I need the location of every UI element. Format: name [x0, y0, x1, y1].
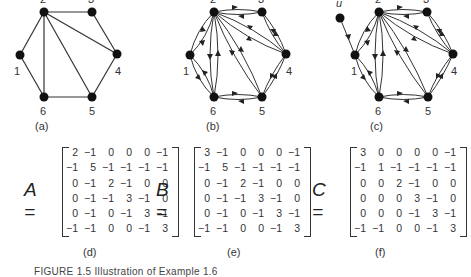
- svg-text:4: 4: [286, 65, 292, 77]
- cell: 0: [230, 221, 248, 236]
- cell: −1: [134, 221, 152, 236]
- cell: 0: [62, 176, 80, 191]
- svg-text:5: 5: [89, 105, 95, 117]
- cell: 0: [368, 176, 386, 191]
- cell: 5: [80, 160, 98, 175]
- svg-text:3: 3: [423, 0, 429, 5]
- cell: −1: [230, 160, 248, 175]
- cell: −1: [80, 176, 98, 191]
- cell: −1: [80, 191, 98, 206]
- cell: −1: [266, 160, 284, 175]
- cell: −1: [212, 206, 230, 221]
- svg-text:6: 6: [210, 105, 216, 117]
- cell: 2: [62, 145, 80, 160]
- cell: 3: [152, 221, 170, 236]
- cell: −1: [440, 145, 458, 160]
- cell: 3: [194, 145, 212, 160]
- cell: −1: [116, 176, 134, 191]
- cell: 0: [284, 176, 302, 191]
- cell: 3: [248, 191, 266, 206]
- cell: −1: [62, 221, 80, 236]
- cell: −1: [422, 160, 440, 175]
- cell: −1: [134, 160, 152, 175]
- cell: −1: [248, 206, 266, 221]
- panel-label-a: (a): [35, 120, 48, 132]
- cell: 0: [284, 191, 302, 206]
- matrix-a-grid: 2−1000−1 −15−1−1−1−1 0−12−100 0−1−13−10 …: [62, 145, 170, 237]
- svg-text:2: 2: [40, 0, 46, 5]
- cell: 3: [116, 191, 134, 206]
- panel-label-f: (f): [375, 246, 385, 258]
- cell: 3: [404, 191, 422, 206]
- cell: 0: [98, 221, 116, 236]
- cell: −1: [368, 221, 386, 236]
- cell: 0: [368, 206, 386, 221]
- cell: 0: [386, 221, 404, 236]
- cell: −1: [152, 145, 170, 160]
- cell: 0: [266, 145, 284, 160]
- cell: 3: [422, 206, 440, 221]
- cell: 0: [386, 206, 404, 221]
- cell: −1: [248, 160, 266, 175]
- cell: 2: [230, 176, 248, 191]
- cell: −1: [98, 160, 116, 175]
- matrix-b-label: B =: [156, 179, 169, 223]
- cell: −1: [284, 160, 302, 175]
- cell: −1: [194, 221, 212, 236]
- cell: −1: [116, 206, 134, 221]
- cell: −1: [440, 160, 458, 175]
- cell: 0: [350, 176, 368, 191]
- cell: 3: [134, 206, 152, 221]
- cell: −1: [230, 191, 248, 206]
- cell: 0: [62, 191, 80, 206]
- cell: 0: [368, 145, 386, 160]
- cell: −1: [350, 221, 368, 236]
- cell: 0: [134, 176, 152, 191]
- cell: 0: [98, 145, 116, 160]
- svg-text:4: 4: [451, 65, 457, 77]
- bracket-right: [460, 147, 467, 237]
- cell: 0: [230, 145, 248, 160]
- cell: −1: [134, 191, 152, 206]
- cell: −1: [248, 176, 266, 191]
- cell: −1: [404, 206, 422, 221]
- svg-text:3: 3: [88, 0, 94, 5]
- svg-text:1: 1: [14, 65, 20, 77]
- panel-label-b: (b): [206, 120, 219, 132]
- cell: −1: [266, 191, 284, 206]
- cell: 0: [440, 191, 458, 206]
- svg-text:u: u: [336, 0, 342, 9]
- svg-text:2: 2: [210, 0, 216, 5]
- cell: −1: [440, 206, 458, 221]
- cell: 0: [422, 145, 440, 160]
- panel-label-e: (e): [227, 246, 240, 258]
- cell: −1: [212, 176, 230, 191]
- cell: 0: [404, 221, 422, 236]
- cell: −1: [404, 176, 422, 191]
- cell: −1: [404, 160, 422, 175]
- cell: 0: [440, 176, 458, 191]
- cell: 3: [440, 221, 458, 236]
- cell: 5: [212, 160, 230, 175]
- cell: 0: [404, 145, 422, 160]
- cell: −1: [422, 221, 440, 236]
- svg-text:5: 5: [425, 105, 431, 117]
- cell: 0: [134, 145, 152, 160]
- cell: 2: [386, 176, 404, 191]
- cell: 0: [116, 221, 134, 236]
- cell: −1: [422, 191, 440, 206]
- cell: −1: [80, 221, 98, 236]
- cell: −1: [194, 160, 212, 175]
- cell: 1: [368, 160, 386, 175]
- matrix-c-grid: 30000−1 −11−1−1−1−1 002−100 0003−10 000−…: [350, 145, 458, 237]
- cell: 3: [350, 145, 368, 160]
- cell: 0: [116, 145, 134, 160]
- cell: 0: [248, 145, 266, 160]
- matrix-b-grid: 3−1000−1 −15−1−1−1−1 0−12−100 0−1−13−10 …: [194, 145, 302, 237]
- svg-text:1: 1: [183, 65, 189, 77]
- cell: −1: [80, 145, 98, 160]
- svg-text:4: 4: [115, 65, 121, 77]
- cell: 0: [266, 176, 284, 191]
- bracket-right: [172, 147, 179, 237]
- cell: −1: [212, 145, 230, 160]
